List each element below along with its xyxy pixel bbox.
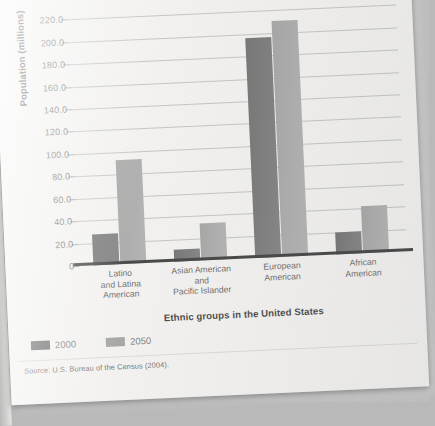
y-axis-tick-label: 100.0 [46, 149, 70, 160]
chart-legend: 20002050 [31, 335, 152, 351]
bar-2050 [116, 159, 147, 264]
category-label-line: American [323, 266, 404, 280]
legend-label: 2000 [55, 338, 77, 350]
y-axis-tick-label: 180.0 [42, 60, 66, 71]
legend-swatch [106, 337, 125, 347]
bar-2050 [361, 205, 389, 253]
bar-group [310, 0, 403, 255]
y-axis-tick-label: 80.0 [52, 172, 71, 183]
y-axis-tick-label: 200.0 [40, 37, 64, 48]
bar-2000 [92, 233, 119, 266]
bar-2050 [200, 222, 228, 260]
bar-group [68, 5, 161, 266]
y-axis-title: Population (millions) [14, 10, 29, 106]
y-axis-tick-label: 60.0 [53, 194, 72, 205]
category-label-line: American [81, 287, 162, 301]
x-axis-category-label: Latinoand LatinaAmerican [80, 266, 162, 301]
bar-group [230, 0, 323, 259]
y-axis-tick-label: 140.0 [44, 104, 68, 115]
y-axis-tick-label: 220.0 [39, 15, 63, 26]
y-axis-tick-label: 160.0 [43, 82, 67, 93]
category-label-line: Pacific Islander [161, 284, 242, 298]
x-axis-category-label: Asian AmericanandPacific Islander [161, 263, 243, 298]
x-axis-category-label: AfricanAmerican [322, 255, 404, 290]
y-axis-tick-label: 40.0 [54, 216, 73, 227]
legend-swatch [31, 340, 50, 350]
source-note: Source: U.S. Bureau of the Census (2004)… [24, 360, 169, 376]
bar-groups [68, 0, 403, 266]
category-label-line: American [242, 270, 323, 284]
bar-chart: Population (millions) 020.040.060.080.01… [20, 0, 405, 310]
y-axis-tick-label: 20.0 [55, 239, 74, 250]
plot-area: 020.040.060.080.0100.0120.0140.0160.0180… [68, 0, 403, 266]
bar-group [149, 1, 242, 262]
textbook-page: Population (millions) 020.040.060.080.01… [0, 0, 429, 405]
legend-item: 2000 [31, 338, 77, 351]
y-axis-tick-label: 120.0 [45, 127, 69, 138]
legend-item: 2050 [106, 335, 152, 348]
legend-label: 2050 [130, 335, 152, 347]
x-axis-title: Ethnic groups in the United States [82, 301, 406, 327]
x-axis-category-label: EuropeanAmerican [241, 259, 323, 294]
